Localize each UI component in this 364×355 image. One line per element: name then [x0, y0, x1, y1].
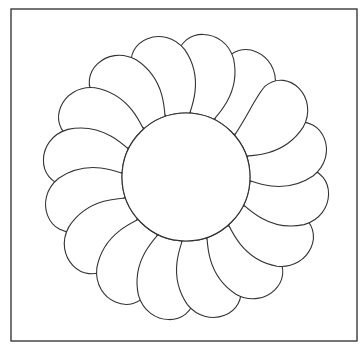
pattern-canvas [0, 0, 364, 355]
center-circle-outline [122, 113, 250, 241]
quilting-pattern-drawing [0, 0, 364, 355]
